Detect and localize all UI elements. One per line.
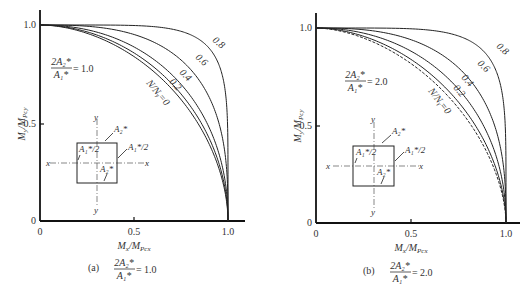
curve-series-N-N-0 [316, 28, 506, 223]
ratio-numerator: 2A₂* [345, 69, 365, 80]
inset-y-label-bottom: y [93, 205, 98, 215]
caption-value: 2.0 [420, 267, 433, 278]
caption-equals: = [412, 267, 418, 278]
caption-prefix: (a) [88, 262, 99, 274]
leader-a2-bottom [381, 177, 384, 184]
curve-label-0: N/Nᵧ=0 [144, 76, 172, 107]
ratio-numerator: 2A₂* [51, 56, 71, 67]
ratio-equals: = [73, 63, 79, 74]
inset-x-label-right: x [144, 158, 149, 168]
ratio-annotation: 2A₂* A₁* = 2.0 [345, 69, 388, 93]
x-tick-label-0: 0 [314, 228, 319, 239]
panel-caption: (a) 2A₂* A₁* = 1.0 [88, 257, 157, 281]
y-tick-label-1.0: 1.0 [300, 22, 313, 33]
inset-label-a1-left: A₁*/2 [355, 147, 377, 157]
inset-y-label-top: y [93, 112, 98, 122]
x-axis-title: Mx/MPcx [393, 242, 428, 255]
curve-label-0.8: 0.8 [211, 34, 228, 50]
curve-label-0.6: 0.6 [476, 58, 493, 75]
leader-a1-left [355, 158, 357, 163]
curves [316, 28, 506, 223]
y-tick-label-0: 0 [307, 217, 312, 228]
ratio-equals: = [367, 76, 373, 87]
caption-numerator: 2A₂* [390, 260, 410, 271]
curve-series-0.2 [316, 28, 506, 223]
cross-section-inset: x x y y A₂* A₁*/2 A₁*/2 A₂* [45, 112, 149, 215]
inset-label-a1-right: A₁*/2 [127, 142, 149, 152]
curve-series-0.6 [316, 28, 506, 223]
caption-numerator: 2A₂* [114, 257, 134, 268]
ratio-value: 2.0 [375, 76, 388, 87]
curve-label-0.2: 0.2 [168, 76, 185, 93]
caption-equals: = [136, 264, 142, 275]
y-tick-label-0: 0 [31, 215, 36, 226]
x-tick-label-1.0: 1.0 [222, 226, 235, 237]
inset-label-a2-top: A₂* [113, 124, 128, 134]
x-tick-label-1.0: 1.0 [500, 228, 513, 239]
y-tick-label-1.0: 1.0 [24, 19, 37, 30]
leader-a1-right [395, 152, 404, 161]
inset-label-a2-bottom: A₂* [376, 167, 391, 177]
cross-section-inset: x x y y A₂* A₁*/2 A₁*/2 A₂* [325, 114, 426, 217]
inset-label-a2-bottom: A₂* [99, 164, 114, 174]
inset-x-label-left: x [45, 158, 50, 168]
caption-denominator: A₁* [392, 273, 408, 284]
curve-series-0.8 [316, 28, 506, 223]
inset-y-label-top: y [370, 114, 375, 124]
caption-prefix: (b) [363, 265, 375, 277]
leader-a2-bottom [104, 174, 107, 181]
inset-label-a1-right: A₁*/2 [404, 145, 426, 155]
panel-a: 1.0 0.5 0 0 0.5 1.0 Mx/MPcx My/MPcy 2A₂*… [16, 10, 245, 281]
ratio-annotation: 2A₂* A₁* = 1.0 [51, 56, 94, 80]
curve-series-0.4 [316, 28, 506, 223]
curve-label-0.6: 0.6 [194, 51, 211, 68]
caption-value: 1.0 [144, 264, 157, 275]
x-tick-label-0.5: 0.5 [405, 228, 418, 239]
leader-a1-left [78, 155, 80, 160]
caption-denominator: A₁* [116, 270, 132, 281]
curve-labels: 0.8 0.6 0.4 0.2 N/Nᵧ=0 [144, 34, 228, 107]
inset-label-a1-left: A₁*/2 [78, 144, 100, 154]
ratio-denominator: A₁* [53, 69, 69, 80]
leader-a2-top [105, 133, 113, 141]
inset-x-label-right: x [418, 161, 423, 171]
leader-a1-right [118, 149, 127, 158]
ratio-denominator: A₁* [347, 82, 363, 93]
panel-b: 1.0 0.5 0 0 0.5 1.0 Mx/MPcx My/MPcy 2A₂*… [292, 13, 520, 284]
panel-caption: (b) 2A₂* A₁* = 2.0 [363, 260, 433, 284]
leader-a2-top [382, 135, 391, 143]
x-tick-label-0.5: 0.5 [128, 226, 141, 237]
inset-y-label-bottom: y [370, 207, 375, 217]
curve-label-0.8: 0.8 [495, 40, 512, 57]
x-axis-title: Mx/MPcx [116, 240, 151, 253]
inset-x-label-left: x [325, 161, 330, 171]
x-tick-label-0: 0 [38, 226, 43, 237]
curve-label-0: N/Nᵧ=0 [426, 85, 454, 116]
ratio-value: 1.0 [81, 63, 94, 74]
interaction-curves-figure: 1.0 0.5 0 0 0.5 1.0 Mx/MPcx My/MPcy 2A₂*… [0, 0, 528, 291]
inset-label-a2-top: A₂* [391, 126, 406, 136]
